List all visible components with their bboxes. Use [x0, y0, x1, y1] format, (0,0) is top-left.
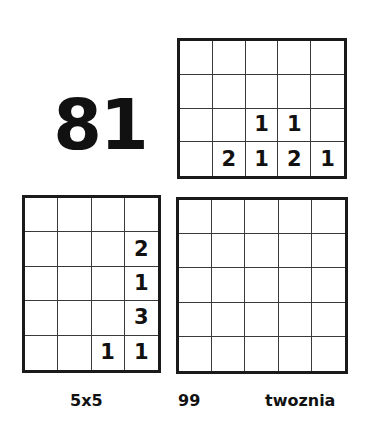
- grid-cell-empty[interactable]: [92, 267, 125, 301]
- grid-cell-empty[interactable]: [212, 200, 245, 234]
- bottom-left-grid[interactable]: 21311: [22, 195, 161, 373]
- grid-cell-empty[interactable]: [92, 301, 125, 335]
- grid-cell-empty[interactable]: [179, 200, 212, 234]
- grid-cell-empty[interactable]: [58, 301, 91, 335]
- grid-cell-empty[interactable]: [92, 232, 125, 266]
- grid-cell-empty[interactable]: [245, 337, 278, 371]
- page-title-number: 81: [40, 83, 160, 167]
- grid-cell-empty[interactable]: [180, 75, 213, 109]
- grid-cell-empty[interactable]: [312, 200, 345, 234]
- grid-cell-empty[interactable]: [213, 75, 246, 109]
- grid-cell-empty[interactable]: [279, 268, 312, 302]
- grid-cell-empty[interactable]: [311, 75, 344, 109]
- grid-cell-empty[interactable]: [245, 234, 278, 268]
- caption-word: twoznia: [265, 390, 335, 412]
- grid-cell-empty[interactable]: [180, 142, 213, 176]
- grid-cell-empty[interactable]: [180, 41, 213, 75]
- grid-cell-empty[interactable]: [246, 75, 279, 109]
- grid-cell-filled[interactable]: 1: [92, 336, 125, 370]
- puzzle-page: 81 112121 21311 5x5 99 twoznia: [0, 0, 370, 427]
- grid-cell-filled[interactable]: 2: [278, 142, 311, 176]
- grid-cell-empty[interactable]: [179, 303, 212, 337]
- grid-cell-empty[interactable]: [212, 234, 245, 268]
- bottom-right-grid[interactable]: [176, 197, 348, 374]
- grid-cell-filled[interactable]: 1: [125, 267, 158, 301]
- grid-cell-empty[interactable]: [25, 267, 58, 301]
- grid-cell-empty[interactable]: [278, 75, 311, 109]
- top-right-grid[interactable]: 112121: [177, 38, 347, 179]
- grid-cell-empty[interactable]: [246, 41, 279, 75]
- grid-cell-empty[interactable]: [311, 109, 344, 143]
- grid-cell-filled[interactable]: 1: [311, 142, 344, 176]
- caption-number: 99: [178, 390, 200, 412]
- grid-cell-filled[interactable]: 1: [246, 142, 279, 176]
- grid-cell-filled[interactable]: 1: [278, 109, 311, 143]
- grid-cell-empty[interactable]: [125, 198, 158, 232]
- grid-cell-filled[interactable]: 2: [213, 142, 246, 176]
- grid-cell-filled[interactable]: 2: [125, 232, 158, 266]
- grid-cell-filled[interactable]: 1: [246, 109, 279, 143]
- grid-cell-empty[interactable]: [312, 303, 345, 337]
- grid-cell-empty[interactable]: [245, 268, 278, 302]
- grid-cell-empty[interactable]: [311, 41, 344, 75]
- grid-cell-empty[interactable]: [179, 268, 212, 302]
- grid-cell-empty[interactable]: [58, 267, 91, 301]
- grid-cell-empty[interactable]: [58, 336, 91, 370]
- grid-cell-empty[interactable]: [213, 41, 246, 75]
- grid-cell-empty[interactable]: [58, 198, 91, 232]
- grid-cell-empty[interactable]: [180, 109, 213, 143]
- grid-cell-empty[interactable]: [279, 200, 312, 234]
- grid-cell-empty[interactable]: [25, 301, 58, 335]
- grid-cell-empty[interactable]: [245, 200, 278, 234]
- grid-cell-filled[interactable]: 3: [125, 301, 158, 335]
- caption-grid-size: 5x5: [70, 390, 103, 412]
- grid-cell-empty[interactable]: [212, 303, 245, 337]
- grid-cell-empty[interactable]: [279, 303, 312, 337]
- grid-cell-filled[interactable]: 1: [125, 336, 158, 370]
- grid-cell-empty[interactable]: [312, 268, 345, 302]
- grid-cell-empty[interactable]: [92, 198, 125, 232]
- grid-cell-empty[interactable]: [312, 337, 345, 371]
- grid-cell-empty[interactable]: [279, 337, 312, 371]
- grid-cell-empty[interactable]: [25, 336, 58, 370]
- grid-cell-empty[interactable]: [25, 198, 58, 232]
- grid-cell-empty[interactable]: [179, 234, 212, 268]
- grid-cell-empty[interactable]: [279, 234, 312, 268]
- grid-cell-empty[interactable]: [25, 232, 58, 266]
- grid-cell-empty[interactable]: [212, 337, 245, 371]
- grid-cell-empty[interactable]: [179, 337, 212, 371]
- grid-cell-empty[interactable]: [245, 303, 278, 337]
- grid-cell-empty[interactable]: [213, 109, 246, 143]
- grid-cell-empty[interactable]: [212, 268, 245, 302]
- grid-cell-empty[interactable]: [312, 234, 345, 268]
- grid-cell-empty[interactable]: [278, 41, 311, 75]
- grid-cell-empty[interactable]: [58, 232, 91, 266]
